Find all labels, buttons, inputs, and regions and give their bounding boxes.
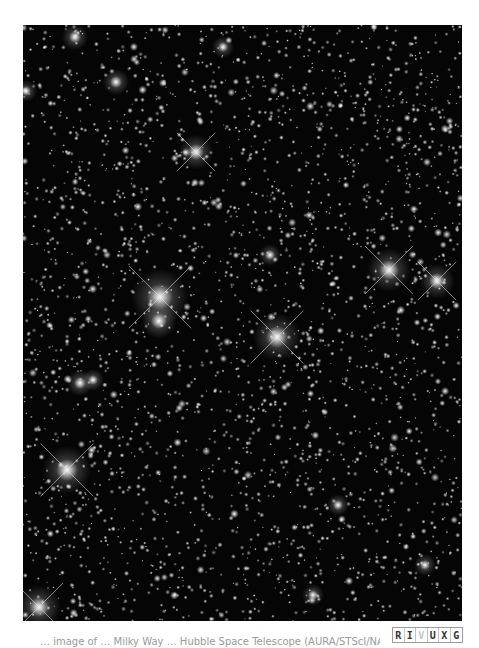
star-field-image	[23, 25, 462, 621]
badge-letter-u: U	[428, 628, 440, 642]
badge-letter-g: G	[451, 628, 463, 642]
star-field-canvas	[23, 25, 462, 621]
wavelength-badge: R I V U X G	[392, 627, 463, 643]
badge-letter-i: I	[405, 628, 417, 642]
figure-caption: … image of … Milky Way … Hubble Space Te…	[40, 636, 380, 648]
badge-letter-r: R	[393, 628, 405, 642]
badge-letter-v: V	[416, 628, 428, 642]
badge-letter-x: X	[439, 628, 451, 642]
